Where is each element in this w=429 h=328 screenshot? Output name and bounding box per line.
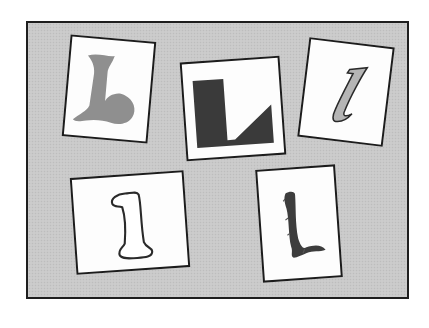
card-brush-L (255, 164, 343, 282)
brush-L-glyph (257, 166, 340, 280)
block-L-glyph (182, 58, 284, 159)
swash-L-glyph (64, 37, 154, 142)
italic-l-glyph (299, 39, 392, 144)
card-block-L (180, 56, 287, 162)
outline-l-glyph (72, 172, 188, 272)
card-swash-L (62, 34, 157, 143)
card-italic-l (297, 37, 395, 147)
card-outline-l (70, 170, 190, 275)
